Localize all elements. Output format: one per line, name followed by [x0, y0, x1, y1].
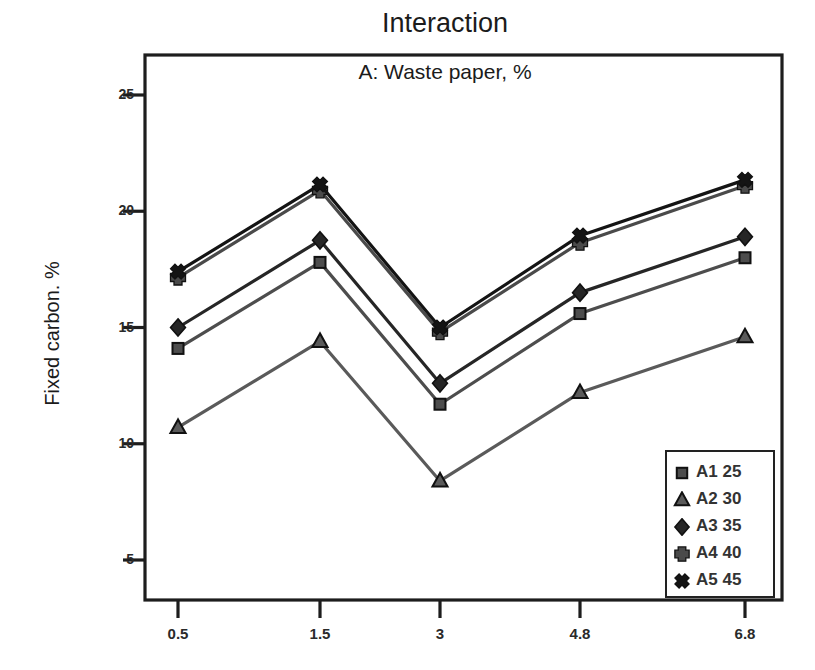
y-tick-label-text: 5: [100, 551, 134, 567]
legend-item-label: A1 25: [696, 462, 741, 482]
square-marker: [173, 343, 184, 354]
legend-item[interactable]: A5 45: [673, 567, 741, 593]
y-tick-label-text: 15: [100, 319, 134, 335]
square-marker: [677, 468, 687, 478]
cross-marker: [738, 172, 753, 187]
series-line: [178, 258, 745, 404]
y-tick-label-text: 25: [100, 86, 134, 102]
square-marker: [740, 252, 751, 263]
y-tick-label: 5: [96, 551, 134, 567]
cross-marker: [573, 228, 588, 243]
legend-item-label: A2 30: [696, 489, 741, 509]
diamond-marker: [738, 228, 753, 245]
diamond-marker: [675, 519, 689, 535]
legend-item[interactable]: A3 35: [673, 513, 741, 539]
plus-marker: [673, 545, 689, 561]
x-tick-label: 4.8: [550, 625, 610, 642]
triangle-marker: [170, 419, 185, 433]
y-tick-label: 15: [96, 319, 134, 335]
legend-item-label: A3 35: [696, 516, 741, 536]
triangle-marker: [312, 333, 327, 347]
triangle-marker: [675, 492, 689, 505]
plus-marker: [675, 547, 689, 561]
square-marker: [315, 257, 326, 268]
x-tick-label: 3: [410, 625, 470, 642]
x-tick-label: 6.8: [715, 625, 775, 642]
square-marker: [575, 308, 586, 319]
legend-item[interactable]: A2 30: [673, 486, 741, 512]
y-tick-label: 10: [96, 435, 134, 451]
square-marker: [435, 399, 446, 410]
diamond-marker: [171, 319, 186, 336]
legend-item[interactable]: A1 25: [673, 459, 741, 485]
cross-marker: [171, 264, 186, 279]
series-line: [178, 237, 745, 383]
cross-marker: [313, 177, 328, 192]
interaction-line-chart: Interaction A: Waste paper, % Fixed carb…: [0, 0, 815, 670]
series-line: [178, 180, 745, 328]
y-tick-label: 20: [96, 202, 134, 218]
cross-marker: [675, 574, 689, 588]
legend-item-label: A4 40: [696, 543, 741, 563]
series-a3-35: [171, 228, 753, 392]
y-tick-label: 25: [96, 86, 134, 102]
y-tick-label-text: 10: [100, 435, 134, 451]
series-line: [178, 337, 745, 481]
square-marker: [673, 464, 689, 480]
triangle-marker: [673, 491, 689, 507]
cross-marker: [433, 320, 448, 335]
series-a4-40: [171, 178, 753, 339]
x-tick-label: 1.5: [290, 625, 350, 642]
cross-marker: [673, 572, 689, 588]
series-a5-45: [171, 172, 753, 334]
legend-item[interactable]: A4 40: [673, 540, 741, 566]
diamond-marker: [673, 518, 689, 534]
x-tick-label: 0.5: [148, 625, 208, 642]
diamond-marker: [573, 284, 588, 301]
y-tick-label-text: 20: [100, 202, 134, 218]
legend-item-label: A5 45: [696, 570, 741, 590]
triangle-marker: [737, 329, 752, 343]
chart-legend: A1 25A2 30A3 35A4 40A5 45: [665, 450, 775, 598]
